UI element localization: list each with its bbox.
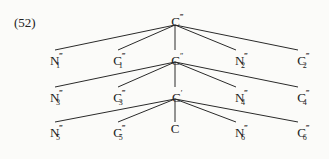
tree-node-root: C‴	[171, 11, 183, 28]
tree-node: N‴3	[50, 87, 60, 109]
edge-root-n1	[55, 25, 175, 50]
edge-cpp-n4	[175, 62, 236, 87]
tree-node: N‴5	[50, 122, 60, 144]
edge-cp-c5	[118, 99, 175, 122]
tree-node: N‴6	[235, 122, 245, 144]
tree-node: C″	[171, 50, 183, 67]
tree-node: C′	[172, 87, 182, 104]
tree-node: C	[171, 122, 180, 135]
edge-root-n2	[175, 25, 236, 50]
tree-node: N‴4	[235, 87, 245, 109]
tree-node: C‴1	[113, 50, 123, 72]
tree-node: N‴1	[50, 50, 60, 72]
tree-node: N‴2	[235, 50, 245, 72]
tree-node: C‴6	[297, 122, 307, 144]
tree-node: C‴5	[113, 122, 123, 144]
edge-root-c1	[118, 25, 175, 50]
edge-cp-n6	[175, 99, 236, 122]
edge-root-c2	[175, 25, 298, 50]
tree-node: C‴4	[297, 87, 307, 109]
tree-node: C‴2	[297, 50, 307, 72]
edge-cpp-c3	[118, 62, 175, 87]
tree-node: C‴3	[113, 87, 123, 109]
